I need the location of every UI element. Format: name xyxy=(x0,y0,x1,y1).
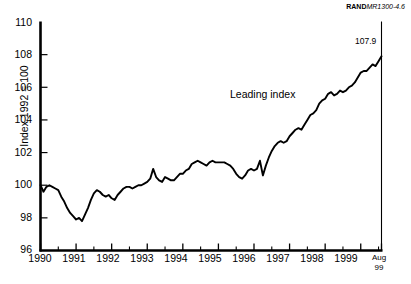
rand-credit-label: RANDMR1300-4.6 xyxy=(346,2,405,11)
y-tick-label-98: 98 xyxy=(6,212,32,223)
x-tick-label-end-month: Aug xyxy=(366,253,392,262)
rand-credit-code: MR1300-4.6 xyxy=(366,3,405,10)
series-annotation-leading-index: Leading index xyxy=(230,88,295,100)
y-tick-label-110: 110 xyxy=(6,17,32,28)
y-tick-label-102: 102 xyxy=(6,147,32,158)
y-tick-label-106: 106 xyxy=(6,82,32,93)
x-tick-label-1999: 1999 xyxy=(326,253,366,264)
x-tick-label-end-year: 99 xyxy=(366,263,392,272)
data-line-leading-index xyxy=(41,56,382,221)
axis-ticks xyxy=(41,55,382,251)
y-tick-label-100: 100 xyxy=(6,179,32,190)
plot-svg xyxy=(0,0,411,284)
figure-container: RANDMR1300-4.6 Index 1992 = 100 110 108 … xyxy=(0,0,411,284)
axis-frame xyxy=(0,0,383,252)
endpoint-value-label: 107.9 xyxy=(355,36,376,46)
data-line-group xyxy=(41,56,382,221)
rand-credit-bold: RAND xyxy=(346,3,366,10)
y-tick-label-104: 104 xyxy=(6,114,32,125)
y-tick-label-108: 108 xyxy=(6,49,32,60)
